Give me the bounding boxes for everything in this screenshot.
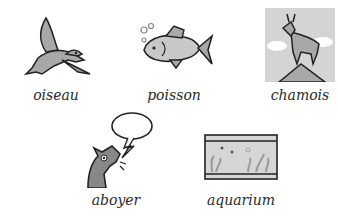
word-label: chamois <box>250 87 338 103</box>
chamois-icon <box>265 8 335 82</box>
barking-dog-icon <box>84 112 164 188</box>
bird-icon <box>18 14 94 80</box>
fish-icon <box>136 20 216 72</box>
word-label: aboyer <box>66 192 166 208</box>
aquarium-icon <box>204 134 278 180</box>
word-label: poisson <box>124 87 224 103</box>
word-label: oiseau <box>6 87 106 103</box>
word-label: aquarium <box>191 192 291 208</box>
